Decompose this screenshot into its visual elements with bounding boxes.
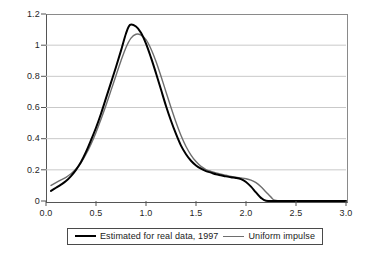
x-axis-tick-labels: 0.0 0.5 1.0 1.5 2.0 2.5 3.0 <box>0 0 372 255</box>
x-tick-label: 0.5 <box>81 209 111 218</box>
x-tick-label: 2.5 <box>281 209 311 218</box>
legend-line-swatch-icon <box>223 236 244 237</box>
legend-label: Estimated for real data, 1997 <box>100 231 218 241</box>
legend-label: Uniform impulse <box>248 231 315 241</box>
legend-entry-uniform-impulse: Uniform impulse <box>223 231 315 241</box>
x-tick-label: 1.5 <box>181 209 211 218</box>
legend-entry-estimated-real-data: Estimated for real data, 1997 <box>75 231 218 241</box>
x-tick-label: 3.0 <box>331 209 361 218</box>
x-tick-label: 1.0 <box>131 209 161 218</box>
x-tick-label: 0.0 <box>31 209 61 218</box>
chart-legend: Estimated for real data, 1997 Uniform im… <box>67 228 323 245</box>
x-tick-label: 2.0 <box>231 209 261 218</box>
chart-figure: 1.2 1 0.8 0.6 0.4 0.2 0 <box>0 0 372 255</box>
legend-line-swatch-icon <box>75 235 96 237</box>
